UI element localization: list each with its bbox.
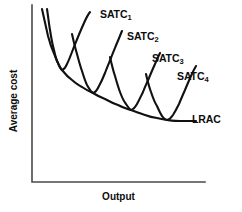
curve-label-satc-1-subscript: 1 — [127, 13, 131, 22]
satc-2-curve — [72, 31, 122, 93]
y-axis-title: Average cost — [9, 62, 19, 140]
lrac-curve — [42, 9, 196, 121]
curve-label-satc-1: SATC1 — [100, 9, 132, 20]
curve-label-lrac: LRAC — [192, 114, 221, 125]
curve-label-satc-3-base: SATC — [152, 52, 179, 64]
curve-label-satc-3: SATC3 — [152, 53, 184, 64]
curve-label-satc-2-subscript: 2 — [154, 35, 158, 44]
lrac-satc-figure: SATC1 SATC2 SATC3 SATC4 LRAC Average cos… — [0, 0, 242, 212]
curve-label-satc-4-base: SATC — [177, 70, 204, 82]
curve-label-satc-2-base: SATC — [127, 30, 154, 42]
axis-lines — [32, 5, 205, 182]
curve-label-lrac-base: LRAC — [192, 113, 221, 125]
curve-label-satc-4: SATC4 — [177, 71, 209, 82]
curve-label-satc-1-base: SATC — [100, 8, 127, 20]
curve-label-satc-4-subscript: 4 — [204, 75, 208, 84]
satc-1-curve — [47, 9, 90, 70]
plot-area — [0, 0, 242, 212]
x-axis-title: Output — [32, 192, 205, 202]
curve-label-satc-3-subscript: 3 — [179, 57, 183, 66]
curve-label-satc-2: SATC2 — [127, 31, 159, 42]
